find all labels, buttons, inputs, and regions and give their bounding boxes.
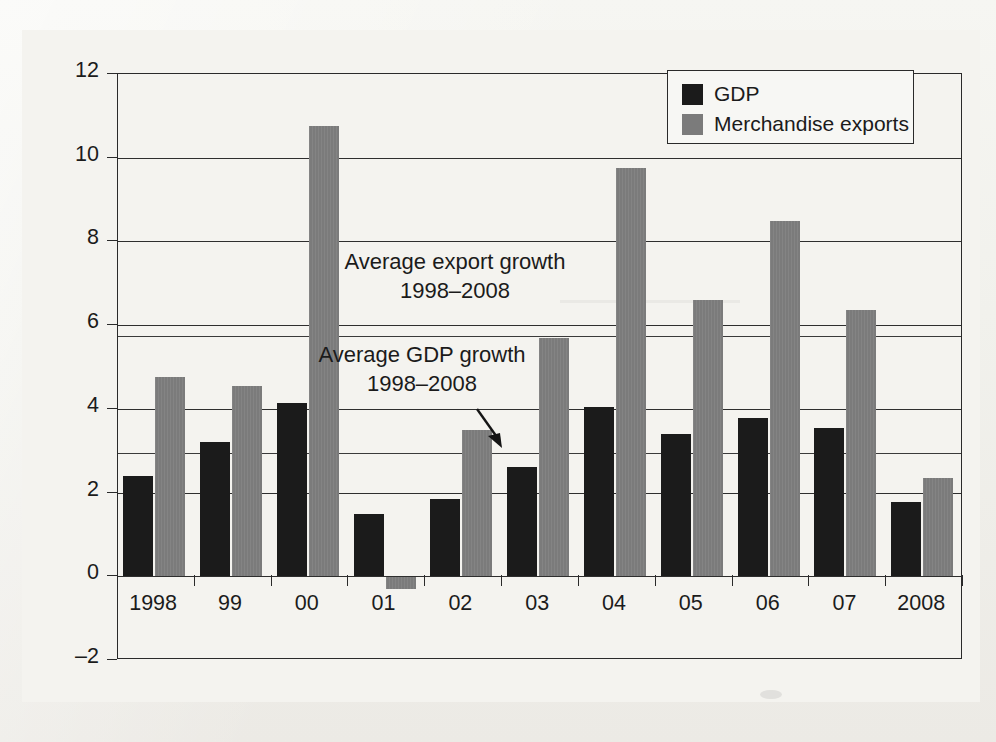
avg-gdp-growth-line1: Average GDP growth (318, 341, 525, 370)
annotation-arrow-icon (455, 398, 525, 458)
x-tick-06 (808, 575, 809, 586)
zero-baseline (118, 576, 961, 577)
x-tick-05 (732, 575, 733, 586)
y-tick-label--2: –2 (39, 644, 99, 669)
bar-exports-01 (386, 576, 416, 589)
bar-exports-2008 (923, 478, 953, 576)
y-tick-12 (107, 73, 117, 74)
avg-gdp-growth-line2: 1998–2008 (318, 370, 525, 399)
x-axis-label-05: 05 (679, 591, 703, 616)
average-line-exports (118, 336, 961, 337)
bar-gdp-04 (584, 407, 614, 577)
y-tick-4 (107, 408, 117, 409)
y-tick-label-8: 8 (39, 225, 99, 250)
x-tick-07 (885, 575, 886, 586)
bar-exports-05 (693, 300, 723, 576)
y-tick-2 (107, 492, 117, 493)
x-axis-label-07: 07 (832, 591, 856, 616)
bar-chart-figure: –2024681012 19989900010203040506072008 A… (0, 0, 996, 742)
y-tick-10 (107, 157, 117, 158)
bar-exports-06 (770, 221, 800, 577)
x-axis-label-00: 00 (295, 591, 319, 616)
legend-swatch-exports (682, 114, 703, 135)
x-tick-99 (271, 575, 272, 586)
x-tick-origin (117, 575, 118, 586)
avg-export-growth-note: Average export growth 1998–2008 (345, 248, 566, 305)
y-tick-label-2: 2 (39, 477, 99, 502)
bar-exports-03 (539, 338, 569, 577)
x-tick-2008 (962, 575, 963, 586)
bar-exports-1998 (155, 377, 185, 576)
bar-gdp-03 (507, 467, 537, 576)
legend-item-merchandise-exports: Merchandise exports (682, 109, 913, 139)
x-axis-label-04: 04 (602, 591, 626, 616)
legend-item-gdp: GDP (682, 79, 913, 109)
legend: GDP Merchandise exports (667, 70, 914, 144)
x-axis-label-02: 02 (448, 591, 472, 616)
x-axis-label-99: 99 (218, 591, 242, 616)
plot-area (117, 73, 962, 659)
y-tick--2 (107, 659, 117, 660)
legend-swatch-gdp (682, 84, 703, 105)
bar-gdp-07 (814, 428, 844, 577)
x-tick-00 (347, 575, 348, 586)
y-tick-6 (107, 324, 117, 325)
x-axis-label-01: 01 (372, 591, 396, 616)
bar-gdp-1998 (123, 476, 153, 576)
y-tick-label-6: 6 (39, 309, 99, 334)
x-tick-03 (578, 575, 579, 586)
y-tick-0 (107, 575, 117, 576)
avg-export-growth-line1: Average export growth (345, 248, 566, 277)
x-tick-1998 (194, 575, 195, 586)
y-tick-label-4: 4 (39, 393, 99, 418)
page-background: –2024681012 19989900010203040506072008 A… (0, 0, 996, 742)
avg-export-growth-line2: 1998–2008 (345, 277, 566, 306)
bar-gdp-05 (661, 434, 691, 576)
gridline-10 (118, 158, 961, 159)
x-axis-label-2008: 2008 (897, 591, 945, 616)
x-tick-04 (655, 575, 656, 586)
bar-exports-07 (846, 310, 876, 576)
x-tick-01 (424, 575, 425, 586)
x-tick-02 (501, 575, 502, 586)
bar-gdp-00 (277, 403, 307, 577)
x-axis-label-06: 06 (756, 591, 780, 616)
bar-gdp-06 (738, 418, 768, 576)
y-tick-label-0: 0 (39, 560, 99, 585)
y-tick-label-10: 10 (39, 142, 99, 167)
bar-gdp-2008 (891, 502, 921, 577)
y-tick-label-12: 12 (39, 58, 99, 83)
gridline-8 (118, 241, 961, 242)
x-axis-label-1998: 1998 (129, 591, 177, 616)
avg-gdp-growth-note: Average GDP growth 1998–2008 (318, 341, 525, 398)
legend-label-gdp: GDP (714, 82, 760, 106)
bar-exports-99 (232, 386, 262, 576)
gridline-6 (118, 325, 961, 326)
legend-label-exports: Merchandise exports (714, 112, 909, 136)
bar-exports-04 (616, 168, 646, 576)
bar-gdp-02 (430, 499, 460, 576)
x-axis-label-03: 03 (525, 591, 549, 616)
bar-gdp-99 (200, 442, 230, 576)
y-tick-8 (107, 240, 117, 241)
bar-gdp-01 (354, 514, 384, 577)
